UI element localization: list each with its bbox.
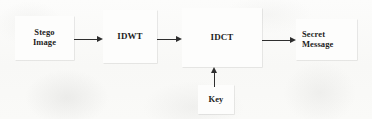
node-key[interactable]: Key	[198, 85, 234, 114]
edge-line	[214, 72, 215, 87]
node-stego-image-label: StegoImage	[33, 28, 56, 47]
node-secret-message-label: SecretMessage	[302, 30, 333, 49]
node-stego-image-label-line1: Stego	[34, 27, 54, 37]
node-key-label: Key	[209, 95, 224, 105]
edge-key-to-idct	[211, 67, 219, 86]
node-idwt-label: IDWT	[117, 31, 142, 41]
node-idct[interactable]: IDCT	[182, 8, 262, 67]
edge-line	[262, 40, 291, 41]
arrowhead-right-icon	[290, 37, 296, 43]
edge-idwt-to-idct	[157, 36, 183, 44]
edge-line	[157, 39, 177, 40]
edge-line	[74, 39, 98, 40]
arrowhead-right-icon	[97, 36, 103, 42]
node-stego-image-label-line2: Image	[33, 37, 56, 47]
block-diagram: StegoImage IDWT IDCT SecretMessage Key	[0, 0, 372, 119]
node-secret-message-label-line2: Message	[302, 39, 333, 49]
edge-stego-image-to-idwt	[74, 36, 103, 44]
node-idwt[interactable]: IDWT	[103, 10, 157, 63]
node-secret-message[interactable]: SecretMessage	[296, 19, 357, 60]
arrowhead-right-icon	[176, 36, 182, 42]
node-idct-label: IDCT	[211, 32, 234, 42]
node-stego-image[interactable]: StegoImage	[15, 16, 74, 60]
edge-idct-to-secret-message	[262, 37, 297, 45]
node-secret-message-label-line1: Secret	[302, 29, 325, 39]
arrowhead-up-icon	[211, 67, 217, 73]
